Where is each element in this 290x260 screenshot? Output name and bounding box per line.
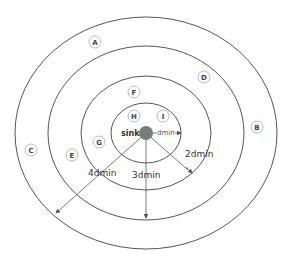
node-label: G — [96, 139, 102, 147]
node-f: F — [128, 86, 140, 98]
node-c: C — [25, 144, 37, 156]
sink-dot — [139, 126, 153, 140]
node-h: H — [128, 110, 140, 122]
2dmin-arrow — [146, 133, 188, 170]
node-label: A — [92, 39, 98, 47]
diagram-svg: dmin 2dmin 3dmin 4dmin ABCDEFGHI sink — [0, 0, 290, 260]
2dmin-arrow-tail — [186, 167, 192, 173]
node-label: I — [162, 113, 165, 121]
node-a: A — [89, 36, 101, 48]
node-label: B — [254, 124, 259, 132]
sensor-nodes: ABCDEFGHI — [25, 36, 263, 161]
node-label: F — [132, 89, 137, 97]
node-label: H — [131, 113, 137, 121]
distance-arrows — [56, 133, 192, 218]
node-i: I — [157, 110, 169, 122]
node-b: B — [251, 121, 263, 133]
node-label: E — [70, 152, 75, 160]
3dmin-label: 3dmin — [132, 170, 160, 180]
node-label: C — [28, 147, 33, 155]
node-e: E — [66, 149, 78, 161]
sink-label: sink — [121, 129, 140, 138]
sink-node: sink — [121, 126, 153, 140]
dmin-label: dmin — [157, 129, 175, 137]
2dmin-label: 2dmin — [185, 149, 213, 159]
node-label: D — [201, 74, 207, 82]
node-g: G — [93, 136, 105, 148]
node-d: D — [198, 71, 210, 83]
sink-distance-diagram: dmin 2dmin 3dmin 4dmin ABCDEFGHI sink — [0, 0, 290, 260]
4dmin-label: 4dmin — [88, 168, 116, 178]
